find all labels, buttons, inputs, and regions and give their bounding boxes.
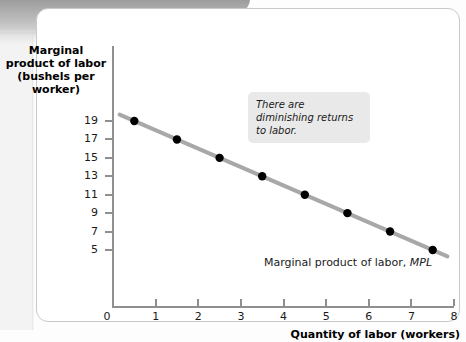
x-axis-title: Quantity of labor (workers) — [264, 328, 460, 341]
data-point — [215, 154, 223, 162]
series-label: Marginal product of labor, MPL — [264, 256, 454, 269]
data-point — [258, 172, 266, 180]
series-label-symbol: MPL — [410, 256, 432, 269]
series-label-text: Marginal product of labor, — [264, 256, 410, 269]
data-point — [130, 117, 138, 125]
data-point — [343, 209, 351, 217]
series-line-layer — [36, 8, 460, 322]
data-point — [386, 227, 394, 235]
diminishing-returns-callout: There are diminishing returns to labor. — [248, 92, 370, 143]
figure-root: Marginal product of labor (bushels per w… — [0, 0, 466, 342]
data-point — [173, 135, 181, 143]
data-point — [428, 246, 436, 254]
plot-area: Marginal product of labor (bushels per w… — [36, 8, 460, 322]
data-point — [301, 191, 309, 199]
